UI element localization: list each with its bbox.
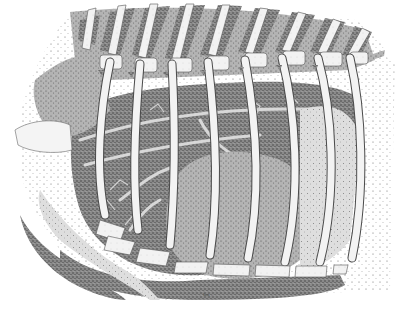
thorax-drawing <box>0 0 399 320</box>
humerus-head <box>15 121 72 153</box>
anatomical-illustration: Tom ... <box>0 0 399 320</box>
artist-signature: Tom ... <box>203 293 214 297</box>
